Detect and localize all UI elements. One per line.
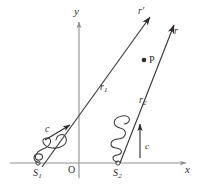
point-p-label: P: [149, 55, 155, 65]
source-s1-subscript: 1: [38, 172, 42, 180]
distance-r2-subscript: 2: [143, 99, 147, 107]
ray-r-label: r: [174, 26, 178, 36]
ray-r-prime-label: r′: [138, 6, 144, 16]
source-s2-subscript: 2: [118, 172, 122, 180]
x-axis-label: x: [185, 164, 190, 175]
y-axis-label: y: [74, 6, 79, 17]
wave-s1-path: [34, 135, 66, 163]
origin-label: O: [68, 165, 75, 175]
wave-train-s1: [34, 135, 66, 163]
ray-r-prime-line: [42, 17, 150, 167]
distance-r1-subscript: 1: [104, 86, 108, 94]
wave-s2-path: [111, 116, 129, 162]
distance-r1-label: r1: [100, 82, 108, 94]
c-right-label: c: [145, 142, 149, 151]
source-s1-label: S1: [33, 168, 42, 180]
c-left-label: c: [45, 124, 49, 134]
wave-train-s2: [111, 116, 129, 162]
point-p-marker: [142, 58, 147, 63]
source-s2-label: S2: [113, 168, 122, 180]
distance-r2-label: r2: [139, 95, 147, 107]
wave-interference-diagram: y x O S1 S2 P r′ r r1 r2 c c: [0, 0, 199, 185]
ray-r-prime: [42, 17, 150, 167]
